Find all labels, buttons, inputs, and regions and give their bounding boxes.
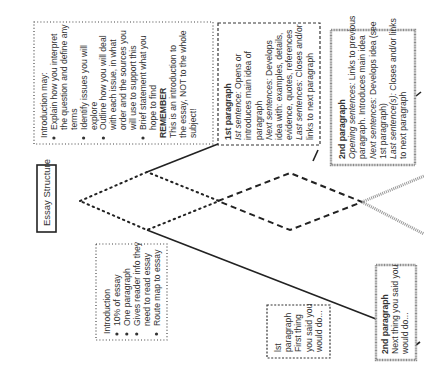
line-text: 1st paragraph) (378, 103, 388, 159)
line-text: introduces main idea of (243, 51, 253, 140)
line-label: Last sentences: (294, 79, 304, 140)
line-text: links to next paragraph (305, 53, 315, 140)
remember-line: This is an introduction to (168, 45, 178, 138)
title-text: Essay Structure (41, 159, 52, 226)
diagram-canvas: Essay Structure Introduction may:Explain… (0, 0, 424, 389)
intro-detail-box: Introduction may:Explain how you interpr… (34, 22, 213, 144)
para1-detail-line: Last sentences: Closes and/or (294, 24, 304, 140)
intro-detail-line: terms (69, 109, 79, 130)
line-label: Next sentences: (368, 97, 378, 159)
intro-summary-box: Introduction10% of essayOne paragraphGiv… (96, 241, 167, 340)
bullet-icon (52, 136, 55, 139)
para1-detail-line: paragraph (254, 101, 264, 140)
para1-detail-box: 1st paragraphIst sentence: Opens orintro… (218, 23, 320, 145)
para1-detail-line: evidence, quotes, references (284, 30, 294, 140)
line-text: paragraph. Introduces main idea (357, 35, 367, 159)
para1-detail-connector (313, 150, 318, 161)
intro-detail-heading: Introduction may: (39, 72, 49, 138)
line-text: Closes and/or links (388, 18, 398, 93)
para2-detail-text: 2nd paragraphOpening sentences: Links to… (337, 16, 408, 159)
intro-summary-line: One paragraph (122, 268, 132, 326)
para1-summary-box: lstparagraphFirst thingyou said youwould… (267, 304, 330, 358)
line-text: Closes and/or (294, 24, 304, 80)
para2-detail-heading: 2nd paragraph (337, 99, 347, 159)
line-label: Opening sentences: (347, 82, 357, 159)
para2-detail-line: paragraph. Introduces main idea (357, 35, 367, 159)
para1-detail-heading: 1st paragraph (223, 83, 233, 140)
intro-detail-line: Explain how you interpret (49, 33, 59, 130)
line-text: evidence, quotes, references (284, 30, 294, 140)
line-text: Develops idea (see (368, 21, 378, 97)
remember-label: REMEMBER (158, 87, 168, 138)
intro-detail-line: Identify issues you will (79, 45, 89, 130)
intro-detail-line: with each issue, in what (108, 39, 118, 131)
intro-summary-heading: Introduction (102, 289, 112, 334)
para2-summary-line: would do... (400, 312, 410, 355)
body-connector (147, 230, 376, 319)
para2-detail-line: Next sentences: Develops idea (see (368, 21, 378, 159)
para1-detail-line: Next sentences: Develops (264, 40, 274, 140)
intro-detail-line: the question and define any (59, 24, 69, 130)
para1-summary-line: lst (273, 343, 283, 352)
para2-hatched-line-lower (362, 202, 424, 234)
line-text: Develops (264, 40, 274, 78)
line-text: Links to previous (347, 16, 357, 83)
intro-detail-line: hope to find (148, 85, 158, 130)
intro-summary-line: Gives reader info they (132, 241, 142, 326)
line-text: paragraph (254, 101, 264, 140)
line-label: Ist sentence: (233, 91, 243, 140)
para1-summary-line: you said you (304, 304, 314, 352)
intro-detail-line: explore (89, 102, 99, 130)
para1-detail-line: Ist sentence: Opens or (233, 53, 243, 140)
para2-detail-line: to next paragraph (398, 91, 408, 159)
para1-dashed-diamond (218, 173, 362, 230)
intro-detail-connector (147, 144, 218, 172)
line-text: to next paragraph (398, 91, 408, 159)
intro-summary-line: 10% of essay (112, 274, 122, 326)
para2-detail-line: Last sentence(s): Closes and/or links (388, 18, 398, 159)
para1-detail-line: introduces main idea of (243, 51, 253, 140)
bullet-icon (125, 332, 128, 335)
remember-line: subject! (188, 108, 198, 138)
intro-summary-line: Route map to essay (152, 249, 162, 326)
line-label: Last sentence(s): (388, 92, 398, 159)
para1-summary-line: would do... (314, 310, 324, 353)
para1-detail-line: idea with: examples, details, (274, 33, 284, 140)
bullet-icon (141, 136, 144, 139)
essay-structure-diagram: Essay Structure Introduction may:Explain… (0, 0, 424, 389)
para1-detail-line: links to next paragraph (305, 53, 315, 140)
bullet-icon (135, 332, 138, 335)
intro-dotted-diamond (80, 172, 219, 230)
para2-summary-line: Next thing you said you (390, 264, 400, 354)
para2-summary-heading: 2nd paragraph (380, 294, 390, 354)
para2-summary-box: 2nd paragraphNext thing you said youwoul… (376, 264, 416, 360)
para2-detail-line: Opening sentences: Links to previous (347, 16, 357, 159)
bullet-icon (155, 332, 158, 335)
para2-detail-line: 1st paragraph) (378, 103, 388, 159)
bullet-icon (115, 332, 118, 335)
intro-detail-line: Outline how you will deal (98, 35, 108, 130)
line-text: Opens or (233, 53, 243, 91)
bullet-icon (102, 136, 105, 139)
bullet-icon (82, 136, 85, 139)
para1-summary-line: First thing (293, 314, 303, 352)
intro-detail-line: will use to support this (128, 45, 138, 131)
intro-detail-line: Brief statement what you (138, 35, 148, 130)
para2-hatched-line-upper (362, 176, 424, 202)
title-box: Essay Structure (37, 159, 56, 232)
line-label: Next sentences: (264, 78, 274, 140)
line-text: idea with: examples, details, (274, 33, 284, 140)
intro-summary-line: need to read essay (142, 252, 152, 326)
para1-summary-line: paragraph (283, 313, 293, 352)
intro-detail-line: order and the sources you (118, 30, 128, 130)
para2-detail-stub (416, 92, 421, 96)
remember-line: the essay, NOT to the whole (178, 30, 188, 138)
para2-detail-box: 2nd paragraphOpening sentences: Links to… (331, 16, 415, 165)
